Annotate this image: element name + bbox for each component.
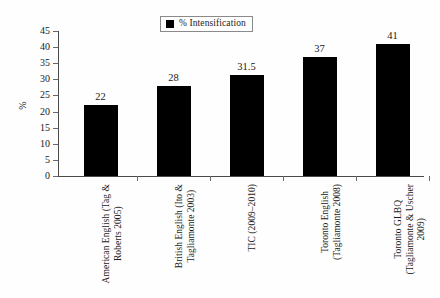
x-axis-tick [210, 176, 211, 181]
x-axis-label-line: Toronto GLBQ [393, 184, 405, 275]
bar-value-label: 31.5 [224, 61, 270, 72]
x-axis-category-label: Toronto English(Tagliamonte 2008) [285, 184, 355, 296]
x-axis-category-label: TIC (2009–2010) [212, 184, 282, 296]
y-axis-tick-label: 45 [28, 26, 50, 36]
x-axis-tick [356, 176, 357, 181]
y-axis-tick-label: 35 [28, 58, 50, 68]
bar [303, 57, 337, 176]
bar-value-label: 28 [151, 72, 197, 83]
y-axis-tick-label: 30 [28, 74, 50, 84]
x-axis-category-label: Toronto GLBQ(Tagliamonte & Uscher2009) [358, 184, 428, 296]
y-axis-line [58, 31, 59, 177]
x-axis-label-line: (Tagliamonte 2008) [331, 184, 343, 260]
y-axis-tick-label: 10 [28, 139, 50, 149]
x-axis-category-label: American English (Tag &Roberts 2005) [66, 184, 136, 296]
x-axis-tick [137, 176, 138, 181]
y-axis-tick-label: 5 [28, 155, 50, 165]
bar [230, 75, 264, 177]
x-axis-line [58, 176, 424, 177]
y-axis-tick-label: 0 [28, 171, 50, 181]
x-axis-label-line: TIC (2009–2010) [247, 184, 259, 252]
x-axis-label-line: (Tagliamonte & Uscher [404, 184, 416, 275]
bar-chart-figure: % Intensification % 454035302520151050 2… [0, 0, 440, 298]
legend-swatch-intensification [166, 20, 174, 28]
x-axis-label-line: Tagliamonte 2003) [185, 184, 197, 268]
y-axis-tick-label: 20 [28, 107, 50, 117]
x-axis-label-line: British English (Ito & [174, 184, 186, 268]
chart-legend: % Intensification [160, 16, 253, 32]
y-axis-labels: 454035302520151050 [26, 0, 50, 298]
y-axis-tick-label: 40 [28, 42, 50, 52]
bar [376, 44, 410, 176]
x-axis-category-label: British English (Ito &Tagliamonte 2003) [139, 184, 209, 296]
bar-value-label: 41 [370, 30, 416, 41]
legend-label-intensification: % Intensification [179, 19, 246, 29]
y-axis-tick-label: 25 [28, 90, 50, 100]
bar-value-label: 22 [78, 91, 124, 102]
x-axis-tick [283, 176, 284, 181]
x-axis-label-line: 2009) [416, 184, 428, 275]
x-axis-label-line: Roberts 2005) [112, 184, 124, 283]
bar [84, 105, 118, 176]
x-axis-label-line: American English (Tag & [101, 184, 113, 283]
x-axis-tick [429, 176, 430, 181]
y-axis-tick-label: 15 [28, 123, 50, 133]
x-axis-label-line: Toronto English [320, 184, 332, 260]
bar-value-label: 37 [297, 43, 343, 54]
bar [157, 86, 191, 176]
